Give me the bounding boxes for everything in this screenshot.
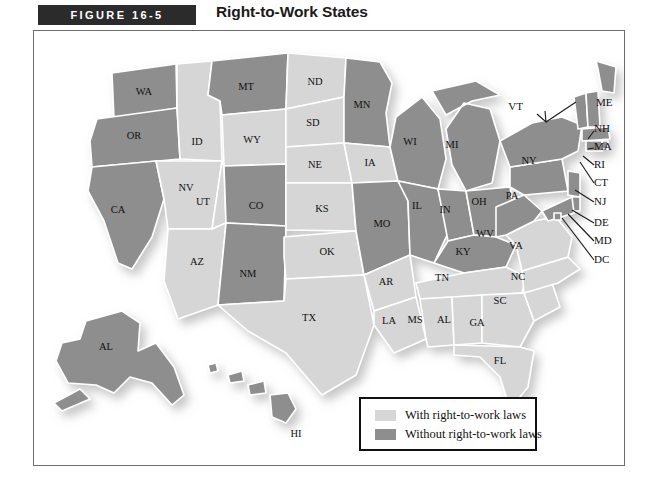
state-OK[interactable] xyxy=(284,231,364,279)
callout-label-ME: ME xyxy=(596,96,613,108)
state-AK-inset[interactable] xyxy=(54,311,184,411)
state-ME[interactable] xyxy=(596,61,616,93)
state-AZ[interactable] xyxy=(164,223,226,319)
state-KS[interactable] xyxy=(286,183,356,231)
callout-label-DE: DE xyxy=(594,216,609,228)
state-CO[interactable] xyxy=(224,164,286,226)
state-MN[interactable] xyxy=(344,58,392,147)
state-HI-inset[interactable] xyxy=(208,363,296,423)
state-MT[interactable] xyxy=(208,53,288,115)
callout-label-NJ: NJ xyxy=(594,195,607,207)
figure-header: FIGURE 16-5 Right-to-Work States xyxy=(0,0,658,32)
figure-number-badge: FIGURE 16-5 xyxy=(38,5,196,25)
callout-label-NH: NH xyxy=(594,122,610,134)
legend-label-without: Without right-to-work laws xyxy=(405,427,542,442)
state-NE[interactable] xyxy=(286,143,352,183)
state-NJ[interactable] xyxy=(568,171,580,197)
callout-line-CT xyxy=(580,162,594,183)
figure-frame: WA OR CA ID NV MT WY UT AZ CO NM ND SD N… xyxy=(33,30,625,466)
callout-label-CT: CT xyxy=(594,176,608,188)
callout-label-VT: VT xyxy=(508,100,523,112)
callout-label-MA: MA xyxy=(594,140,612,152)
callout-label-MD: MD xyxy=(594,234,612,246)
state-OR[interactable] xyxy=(90,108,180,167)
legend-label-with: With right-to-work laws xyxy=(405,408,526,423)
state-label-HI: HI xyxy=(290,428,302,439)
legend-item-with: With right-to-work laws xyxy=(375,406,535,425)
state-WY[interactable] xyxy=(222,109,286,166)
state-NV[interactable] xyxy=(156,161,222,229)
legend-swatch-without xyxy=(375,429,396,440)
callout-line-RI xyxy=(583,156,594,165)
legend-item-without: Without right-to-work laws xyxy=(375,425,535,444)
figure-number-label: FIGURE 16-5 xyxy=(70,9,163,21)
legend-swatch-with xyxy=(375,410,396,421)
callout-label-DC: DC xyxy=(594,253,609,265)
state-CA[interactable] xyxy=(88,161,164,269)
figure-title: Right-to-Work States xyxy=(216,3,368,21)
state-NY[interactable] xyxy=(500,117,582,167)
map-legend: With right-to-work laws Without right-to… xyxy=(359,397,537,451)
state-AL[interactable] xyxy=(452,295,482,345)
state-WI[interactable] xyxy=(390,97,446,189)
state-DC[interactable] xyxy=(554,213,561,220)
state-NM[interactable] xyxy=(218,223,286,305)
callout-label-RI: RI xyxy=(594,158,605,170)
